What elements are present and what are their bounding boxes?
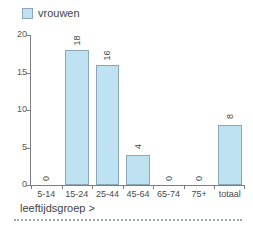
- bar-slot-45-64: 4: [123, 35, 154, 185]
- x-tick-label-75-plus: 75+: [184, 189, 215, 199]
- bar-15-24[interactable]: [65, 50, 89, 185]
- square-swatch-icon: [22, 8, 33, 19]
- plot-area: 0 5 10 15 20 0: [30, 35, 245, 185]
- legend-label-vrouwen: vrouwen: [38, 8, 80, 19]
- chart-legend: vrouwen: [22, 6, 80, 20]
- y-tick-label-0: 0: [22, 179, 27, 189]
- bar-value-label-75-plus: 0: [195, 176, 204, 181]
- x-tick-label-15-24: 15-24: [62, 189, 93, 199]
- y-tick-label-15: 15: [17, 67, 27, 77]
- bar-totaal[interactable]: [218, 125, 242, 185]
- x-tick-label-25-44: 25-44: [92, 189, 123, 199]
- x-tick-label-totaal: totaal: [214, 189, 245, 199]
- bar-slot-5-14: 0: [31, 35, 62, 185]
- bar-slot-65-74: 0: [153, 35, 184, 185]
- x-tick-label-65-74: 65-74: [153, 189, 184, 199]
- x-axis-tick-labels: 5-14 15-24 25-44 45-64 65-74 75+ totaal: [31, 189, 245, 199]
- x-tick-label-5-14: 5-14: [31, 189, 62, 199]
- footer-dotted-rule: [14, 219, 242, 221]
- y-tick-label-10: 10: [17, 104, 27, 114]
- bar-25-44[interactable]: [96, 65, 120, 185]
- y-tick-label-20: 20: [17, 29, 27, 39]
- bar-value-label-65-74: 0: [164, 176, 173, 181]
- bar-value-label-5-14: 0: [42, 176, 51, 181]
- bar-value-label-totaal: 8: [225, 114, 234, 119]
- y-tick-label-5: 5: [22, 142, 27, 152]
- bar-value-label-15-24: 18: [72, 35, 81, 45]
- bar-series-vrouwen: 0 18 16 4 0 0: [31, 35, 245, 185]
- x-axis-title: leeftijdsgroep >: [20, 202, 95, 214]
- bar-value-label-45-64: 4: [134, 144, 143, 149]
- bar-slot-75-plus: 0: [184, 35, 215, 185]
- bar-value-label-25-44: 16: [103, 50, 112, 60]
- bar-chart-figure: vrouwen 0 5 10 15 20: [0, 0, 253, 227]
- bar-slot-25-44: 16: [92, 35, 123, 185]
- bar-slot-15-24: 18: [62, 35, 93, 185]
- x-tick-label-45-64: 45-64: [123, 189, 154, 199]
- bar-45-64[interactable]: [126, 155, 150, 185]
- bar-slot-totaal: 8: [214, 35, 245, 185]
